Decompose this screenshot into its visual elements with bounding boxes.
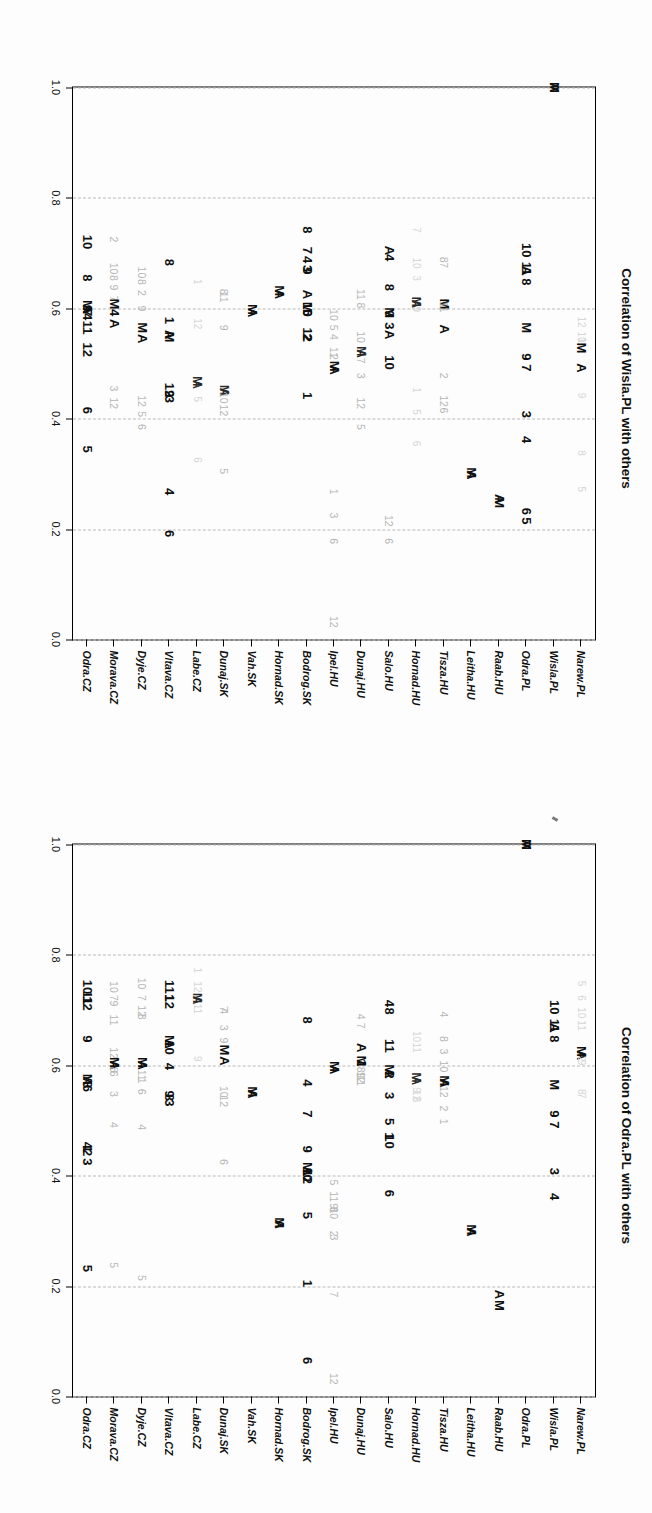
data-point: 3: [329, 1234, 340, 1240]
data-point: A: [547, 82, 560, 91]
value-tick-0.0: [66, 639, 73, 640]
data-point: 6: [219, 1158, 230, 1164]
data-point: 9: [576, 1059, 586, 1065]
data-point: 7: [356, 357, 367, 363]
data-point: 3: [109, 1091, 120, 1097]
data-point: 7: [329, 1291, 340, 1297]
data-point: 3: [219, 1024, 230, 1030]
category-tick-salo.hu: [388, 639, 389, 646]
data-point: 1: [192, 967, 202, 973]
category-tick-bodrog.sk: [306, 639, 307, 646]
data-point: 6: [576, 995, 586, 1001]
data-point: 8: [576, 450, 586, 456]
data-point: 10: [136, 977, 147, 989]
category-label-wisla.pl: Wisla.PL: [548, 1407, 560, 1451]
data-point: 6: [80, 1084, 93, 1091]
data-point: 12: [80, 996, 93, 1010]
data-point: 10: [547, 1000, 560, 1014]
panel-title-wisla: Correlation of Wisla.PL with others: [619, 0, 634, 756]
category-label-narew.pl: Narew.PL: [575, 650, 587, 697]
data-point: 9: [80, 1035, 93, 1042]
category-tick-vah.sk: [251, 639, 252, 646]
category-tick-hornad.hu: [415, 639, 416, 646]
category-tick-hornad.sk: [278, 639, 279, 646]
data-point: 5: [382, 1117, 395, 1124]
data-point: 10: [136, 266, 147, 278]
category-tick-salo.hu: [388, 1396, 389, 1403]
data-point: 6: [163, 529, 176, 536]
data-point: 9: [219, 1037, 230, 1043]
category-label-salo.hu: Salo.HU: [383, 1407, 395, 1447]
data-point: 12: [329, 615, 340, 627]
data-point: 8: [136, 278, 147, 284]
data-point: 11: [192, 1003, 202, 1013]
data-point: 10: [382, 1134, 395, 1148]
category-tick-narew.pl: [580, 1396, 581, 1403]
data-point: M: [520, 322, 533, 333]
data-point: 10: [163, 1040, 176, 1054]
data-point: 6: [80, 406, 93, 413]
plot-area-odra: 1.00.80.60.40.20.0Odra.CZMorava.CZDyje.C…: [72, 843, 596, 1397]
category-label-narew.pl: Narew.PL: [575, 1407, 587, 1454]
value-tick-label-1.0: 1.0: [50, 836, 62, 851]
value-tick-label-0.2: 0.2: [50, 521, 62, 536]
data-point: 2: [80, 1148, 93, 1155]
data-point: 4: [108, 309, 121, 316]
data-point: 3: [439, 1048, 450, 1054]
data-point: 8: [300, 1016, 313, 1023]
data-point: 4: [300, 1079, 313, 1086]
category-label-dyje.cz: Dyje.CZ: [136, 1407, 148, 1446]
data-point: A: [328, 1065, 341, 1074]
data-point: 10: [109, 262, 120, 274]
data-point: A: [547, 1023, 560, 1032]
data-point: 6: [411, 440, 421, 446]
category-label-wisla.pl: Wisla.PL: [548, 650, 560, 694]
data-point: 8: [439, 1035, 450, 1041]
category-tick-wisla.pl: [553, 1396, 554, 1403]
value-tick-label-0.8: 0.8: [50, 947, 62, 962]
data-point: 5: [520, 517, 533, 524]
data-point: 5: [356, 424, 367, 430]
category-tick-odra.cz: [86, 1396, 87, 1403]
category-tick-odra.pl: [525, 639, 526, 646]
value-tick-1.0: [66, 87, 73, 88]
data-point: 5: [219, 468, 230, 474]
category-label-raab.hu: Raab.HU: [493, 1407, 505, 1451]
screenshot-root: Correlation of Wisla.PL with others 1.00…: [0, 0, 652, 1513]
panel-wisla: Correlation of Wisla.PL with others 1.00…: [0, 0, 652, 756]
data-point: A: [191, 380, 203, 389]
gridline-value-0.4: [73, 1175, 595, 1176]
data-point: 12: [219, 1095, 230, 1107]
category-label-labe.cz: Labe.CZ: [191, 650, 203, 691]
category-tick-vltava.cz: [168, 1396, 169, 1403]
category-tick-wisla.pl: [553, 639, 554, 646]
data-point: 4: [300, 256, 313, 263]
data-point: 6: [520, 507, 533, 514]
data-point: 5: [192, 396, 202, 402]
data-point: 10: [411, 1031, 421, 1042]
data-point: A: [135, 333, 148, 342]
data-point: 5: [136, 1274, 147, 1280]
data-point: 1: [136, 1077, 147, 1083]
data-point: 11: [439, 301, 450, 312]
category-tick-vltava.cz: [168, 639, 169, 646]
data-point: A: [355, 1042, 368, 1051]
data-point: 8: [382, 283, 395, 290]
data-point: 11: [356, 289, 367, 300]
data-point: 11: [329, 1191, 340, 1202]
category-tick-dunaj.hu: [360, 639, 361, 646]
category-tick-morava.cz: [113, 639, 114, 646]
category-tick-bodrog.sk: [306, 1396, 307, 1403]
data-point: 10: [80, 234, 93, 248]
category-tick-morava.cz: [113, 1396, 114, 1403]
gridline-value-0.0: [73, 1396, 595, 1397]
data-point: 5: [576, 980, 586, 986]
data-point: 5: [136, 411, 147, 417]
data-point: 1: [163, 316, 176, 323]
data-point: 5: [109, 1262, 120, 1268]
value-tick-label-0.0: 0.0: [50, 1388, 62, 1403]
category-tick-dyje.cz: [141, 1396, 142, 1403]
data-point: 12: [356, 397, 367, 409]
category-label-odra.cz: Odra.CZ: [81, 1407, 93, 1448]
data-point: A: [245, 308, 258, 317]
